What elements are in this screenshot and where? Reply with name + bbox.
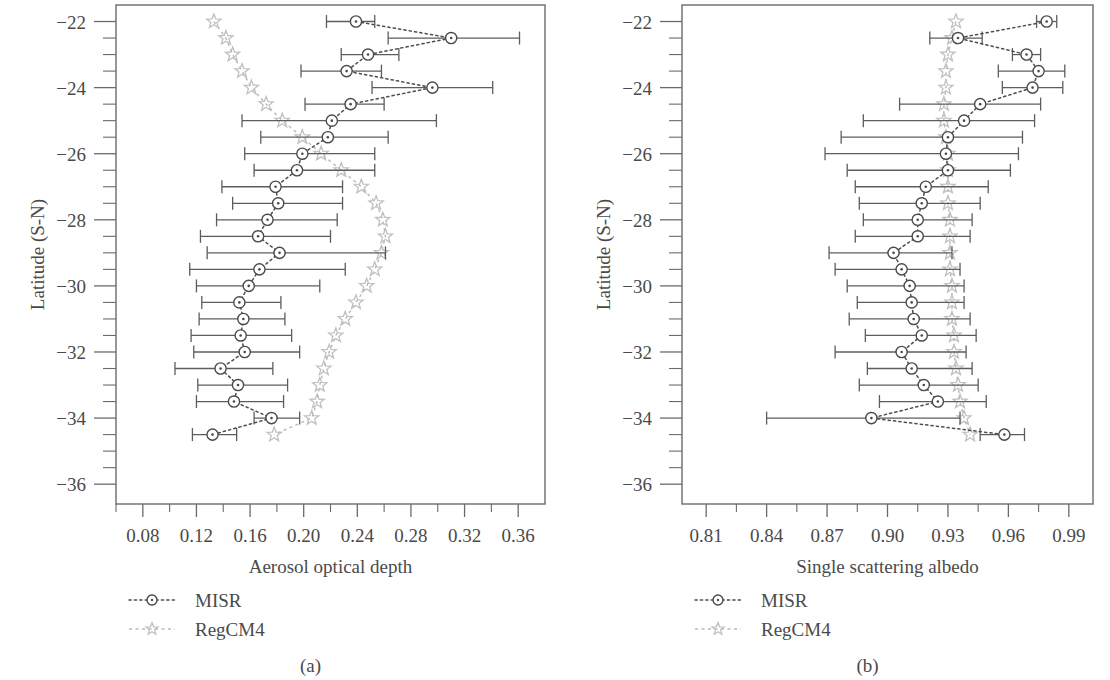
misr-marker-center xyxy=(270,417,273,420)
misr-marker-center xyxy=(947,136,950,139)
regcm4-star-marker xyxy=(275,113,289,127)
misr-marker-center xyxy=(367,53,370,56)
regcm4-star-marker xyxy=(317,361,331,375)
misr-line xyxy=(871,22,1046,435)
misr-marker-center xyxy=(258,268,261,271)
panel-caption: (b) xyxy=(856,655,878,677)
misr-marker-center xyxy=(922,384,925,387)
misr-marker-center xyxy=(278,252,281,255)
misr-marker-center xyxy=(1037,70,1040,73)
misr-marker-center xyxy=(242,318,245,321)
misr-marker-center xyxy=(924,185,927,188)
legend: MISRRegCM4 xyxy=(695,590,831,640)
misr-marker-center xyxy=(920,202,923,205)
regcm4-star-marker xyxy=(314,146,328,160)
misr-marker-center xyxy=(296,169,299,172)
panel-b-plot: 0.810.840.870.900.930.960.99−22−24−26−28… xyxy=(555,0,1110,680)
x-tick-label: 0.16 xyxy=(233,525,266,546)
x-tick-label: 0.32 xyxy=(448,525,481,546)
misr-line xyxy=(213,22,452,435)
misr-marker-center xyxy=(900,351,903,354)
misr-marker-center xyxy=(945,152,948,155)
x-axis: 0.810.840.870.900.930.960.99 xyxy=(690,504,1086,546)
y-tick-label: −36 xyxy=(622,474,652,495)
misr-marker-center xyxy=(219,367,222,370)
x-axis-title: Aerosol optical depth xyxy=(249,556,413,577)
legend: MISRRegCM4 xyxy=(129,590,265,640)
legend-label: RegCM4 xyxy=(761,619,831,640)
misr-marker-center xyxy=(912,318,915,321)
y-tick-label: −28 xyxy=(56,210,86,231)
regcm4-star-marker xyxy=(226,47,240,61)
misr-marker-center xyxy=(301,152,304,155)
panel-b: 0.810.840.870.900.930.960.99−22−24−26−28… xyxy=(555,0,1110,680)
y-tick-label: −22 xyxy=(622,12,652,33)
misr-marker-center xyxy=(910,301,913,304)
y-tick-label: −36 xyxy=(56,474,86,495)
regcm4-star-marker xyxy=(354,179,368,193)
misr-marker-center xyxy=(243,351,246,354)
misr-marker-center xyxy=(238,301,241,304)
regcm4-star-marker xyxy=(235,64,249,78)
y-tick-label: −30 xyxy=(622,276,652,297)
x-tick-label: 0.87 xyxy=(810,525,843,546)
legend-marker-regcm4 xyxy=(712,623,724,635)
regcm4-star-marker xyxy=(295,130,309,144)
misr-marker-center xyxy=(431,86,434,89)
misr-marker-center xyxy=(247,285,250,288)
x-axis: 0.080.120.160.200.240.280.320.36 xyxy=(116,504,535,546)
legend-item-regcm4: RegCM4 xyxy=(695,619,831,640)
series-regcm4 xyxy=(207,14,393,441)
legend-label: MISR xyxy=(195,590,242,611)
y-tick-label: −24 xyxy=(622,78,652,99)
panel-caption: (a) xyxy=(300,655,321,677)
y-axis-title: Latitude (S-N) xyxy=(27,199,49,310)
misr-marker-center xyxy=(233,400,236,403)
regcm4-star-marker xyxy=(334,163,348,177)
legend-marker-regcm4 xyxy=(146,623,158,635)
legend-label: RegCM4 xyxy=(195,619,265,640)
legend-label: MISR xyxy=(761,590,808,611)
misr-marker-center xyxy=(345,70,348,73)
series-regcm4 xyxy=(937,14,977,441)
regcm4-star-marker xyxy=(305,411,319,425)
legend-marker-misr-center xyxy=(151,599,153,601)
regcm4-star-marker xyxy=(267,427,281,441)
misr-marker-center xyxy=(920,334,923,337)
misr-marker-center xyxy=(979,103,982,106)
misr-marker-center xyxy=(900,268,903,271)
y-axis-title: Latitude (S-N) xyxy=(593,199,615,310)
panel-a-plot: 0.080.120.160.200.240.280.320.36−22−24−2… xyxy=(0,0,555,680)
x-tick-label: 0.36 xyxy=(502,525,535,546)
x-tick-label: 0.96 xyxy=(992,525,1025,546)
regcm4-star-marker xyxy=(369,196,383,210)
figure-container: 0.080.120.160.200.240.280.320.36−22−24−2… xyxy=(0,0,1110,680)
misr-marker-center xyxy=(1031,86,1034,89)
misr-error-bars xyxy=(175,15,520,441)
misr-marker-center xyxy=(910,367,913,370)
y-tick-label: −34 xyxy=(622,408,652,429)
plot-frame xyxy=(116,5,545,504)
misr-marker-center xyxy=(1025,53,1028,56)
misr-marker-center xyxy=(892,252,895,255)
y-axis: −22−24−26−28−30−32−34−36 xyxy=(622,12,682,496)
y-tick-label: −26 xyxy=(56,144,86,165)
x-tick-label: 0.90 xyxy=(871,525,904,546)
misr-marker-center xyxy=(1003,433,1006,436)
regcm4-star-marker xyxy=(374,245,388,259)
regcm4-star-marker xyxy=(949,14,963,28)
legend-item-misr: MISR xyxy=(695,590,808,611)
legend-item-regcm4: RegCM4 xyxy=(129,619,265,640)
regcm4-line xyxy=(214,22,386,435)
misr-marker-center xyxy=(274,185,277,188)
misr-marker-center xyxy=(870,417,873,420)
y-tick-label: −26 xyxy=(622,144,652,165)
y-tick-label: −24 xyxy=(56,78,86,99)
misr-marker-center xyxy=(331,119,334,122)
misr-marker-center xyxy=(349,103,352,106)
y-tick-label: −22 xyxy=(56,12,86,33)
x-tick-label: 0.81 xyxy=(690,525,723,546)
misr-marker-center xyxy=(450,37,453,40)
x-tick-label: 0.20 xyxy=(287,525,320,546)
misr-marker-center xyxy=(908,285,911,288)
